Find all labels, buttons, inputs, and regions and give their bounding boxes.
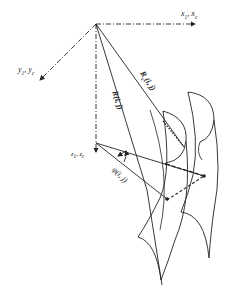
vector-rc-line [96,24,184,147]
angle-phi-arc [124,151,126,162]
x-axis-label: x1, xc [181,10,197,20]
node-right [202,174,206,178]
front-surface-inner [150,110,164,230]
back-surface-top-cap [188,92,214,142]
y-axis [40,24,96,80]
back-surface-bottom [181,212,209,258]
y-axis-label: y1, yc [18,66,34,76]
dashed-connector-bottom [167,176,204,200]
back-surface-hook [198,142,202,160]
front-surface-right-edge [161,141,188,280]
z-axis-label: z1, zc [71,151,85,160]
node-lower [165,197,169,201]
back-surface-right-edge [209,120,218,258]
lower-ray [96,143,167,199]
diagram-canvas [0,0,231,289]
